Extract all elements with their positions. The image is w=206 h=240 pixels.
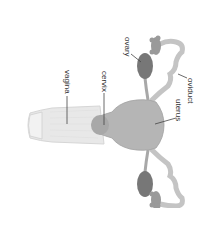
fimbriae-upper [150,36,162,56]
label-ovary: ovary [123,37,131,57]
label-oviduct: oviduct [186,78,194,103]
ovary-upper [137,53,153,79]
ovary-ligament-lower [145,150,148,172]
label-vagina: vagina [63,70,71,94]
label-uterus: uterus [174,99,182,121]
label-cervix: cervix [100,71,108,92]
fimbriae-lower [150,191,162,208]
ovary-ligament-upper [145,78,148,100]
cervix-shape [91,115,109,135]
